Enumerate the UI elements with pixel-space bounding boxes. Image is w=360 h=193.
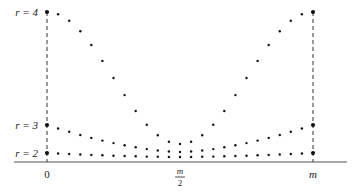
curve-dot bbox=[290, 153, 292, 155]
curve-dot bbox=[90, 44, 92, 46]
dotted-curves-diagram: r = 4 r = 3 r = 2 0 m 2 m bbox=[0, 0, 360, 193]
curve-dot bbox=[311, 123, 315, 127]
curve-dot bbox=[157, 156, 159, 158]
curve-dot bbox=[45, 151, 49, 155]
curve-dot bbox=[201, 149, 203, 151]
curve-label-r3: r = 3 bbox=[15, 119, 38, 131]
curve-dot bbox=[79, 153, 81, 155]
curve-dot bbox=[112, 155, 114, 157]
curve-dot bbox=[57, 13, 59, 15]
curve-dot bbox=[68, 20, 70, 22]
curve-dot bbox=[179, 151, 181, 153]
curve-dot bbox=[135, 110, 137, 112]
curve-dot bbox=[190, 150, 192, 152]
curve-dot bbox=[123, 94, 125, 96]
curve-dot bbox=[112, 77, 114, 79]
curve-dots bbox=[45, 10, 315, 158]
curve-dot bbox=[223, 146, 225, 148]
curve-dot bbox=[212, 124, 214, 126]
curve-dot bbox=[135, 146, 137, 148]
curve-dot bbox=[45, 123, 49, 127]
curve-dot bbox=[212, 148, 214, 150]
curve-dot bbox=[311, 151, 315, 155]
curve-dot bbox=[123, 144, 125, 146]
curve-dot bbox=[90, 154, 92, 156]
curve-dot bbox=[168, 150, 170, 152]
tick-label-half-num: m bbox=[177, 166, 184, 176]
curve-dot bbox=[146, 148, 148, 150]
tick-label-zero: 0 bbox=[44, 168, 50, 180]
curve-dot bbox=[311, 10, 315, 14]
curve-dot bbox=[201, 134, 203, 136]
curve-dot bbox=[245, 77, 247, 79]
curve-dot bbox=[234, 144, 236, 146]
curve-dot bbox=[190, 141, 192, 143]
curve-dot bbox=[301, 152, 303, 154]
curve-dot bbox=[101, 139, 103, 141]
curve-dot bbox=[290, 20, 292, 22]
curve-dot bbox=[256, 60, 258, 62]
curve-dot bbox=[256, 154, 258, 156]
tick-label-m: m bbox=[309, 168, 317, 180]
curve-dot bbox=[146, 124, 148, 126]
curve-dot bbox=[179, 156, 181, 158]
curve-dot bbox=[135, 155, 137, 157]
curve-dot bbox=[123, 155, 125, 157]
curve-dot bbox=[223, 110, 225, 112]
curve-dot bbox=[223, 155, 225, 157]
curve-dot bbox=[112, 142, 114, 144]
curve-dot bbox=[268, 154, 270, 156]
curve-dot bbox=[101, 60, 103, 62]
curve-dot bbox=[157, 134, 159, 136]
curve-dot bbox=[168, 156, 170, 158]
curve-dot bbox=[146, 155, 148, 157]
curve-dot bbox=[290, 131, 292, 133]
tick-label-half-den: 2 bbox=[178, 178, 183, 188]
curve-dot bbox=[101, 154, 103, 156]
curve-dot bbox=[68, 153, 70, 155]
curve-dot bbox=[245, 142, 247, 144]
curve-dot bbox=[68, 131, 70, 133]
curve-dot bbox=[301, 13, 303, 15]
curve-dot bbox=[279, 153, 281, 155]
curve-dot bbox=[256, 139, 258, 141]
curve-dot bbox=[168, 141, 170, 143]
curve-dot bbox=[179, 143, 181, 145]
curve-dot bbox=[245, 155, 247, 157]
curve-dot bbox=[90, 137, 92, 139]
curve-dot bbox=[190, 156, 192, 158]
curve-label-r4: r = 4 bbox=[15, 6, 38, 18]
curve-dot bbox=[57, 127, 59, 129]
curve-dot bbox=[301, 127, 303, 129]
curve-dot bbox=[79, 30, 81, 32]
curve-dot bbox=[234, 94, 236, 96]
curve-dot bbox=[234, 155, 236, 157]
curve-dot bbox=[268, 137, 270, 139]
curve-dot bbox=[268, 44, 270, 46]
curve-dot bbox=[201, 156, 203, 158]
curve-dot bbox=[279, 30, 281, 32]
curve-label-r2: r = 2 bbox=[15, 147, 38, 159]
curve-dot bbox=[157, 149, 159, 151]
curve-dot bbox=[79, 134, 81, 136]
curve-dot bbox=[45, 10, 49, 14]
curve-dot bbox=[279, 134, 281, 136]
curve-dot bbox=[212, 155, 214, 157]
curve-dot bbox=[57, 152, 59, 154]
